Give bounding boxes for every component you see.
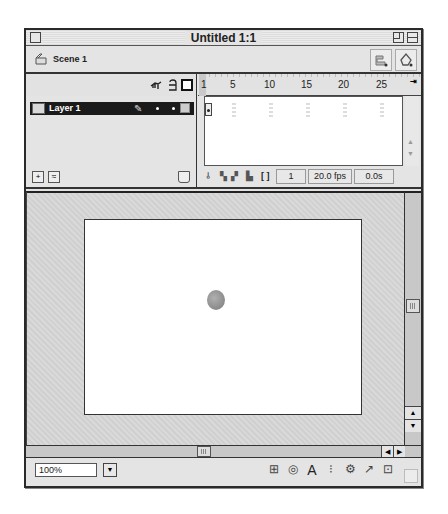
horizontal-scroll-thumb[interactable] bbox=[197, 446, 211, 457]
layers-header bbox=[26, 74, 196, 96]
title-bar[interactable]: Untitled 1:1 bbox=[26, 30, 421, 46]
info-panel-icon[interactable]: ⊞ bbox=[267, 462, 281, 478]
layers-footer: + ≈ bbox=[26, 167, 196, 187]
vertical-scroll-thumb[interactable] bbox=[406, 299, 420, 313]
scroll-left-button[interactable]: ◀ bbox=[381, 446, 393, 457]
edit-symbols-icon bbox=[373, 52, 389, 68]
frame-view-menu-icon[interactable]: ⇥ bbox=[410, 77, 417, 86]
layer-icon bbox=[32, 103, 45, 114]
launcher-bar: ⊞ ◎ A ⁝ ⚙ ↗ ⊡ bbox=[267, 462, 395, 478]
keyframe-1[interactable] bbox=[205, 103, 212, 116]
work-area[interactable] bbox=[26, 191, 404, 445]
instance-icon[interactable]: ⁝ bbox=[324, 462, 338, 478]
layers-panel: Layer 1 ✎ + ≈ bbox=[26, 74, 197, 187]
frame-marker bbox=[343, 103, 347, 117]
horizontal-scrollbar[interactable]: ◀ ▶ bbox=[26, 445, 421, 458]
edit-scene-icon bbox=[398, 52, 414, 68]
scene-icon bbox=[34, 53, 48, 65]
scroll-right-button[interactable]: ▶ bbox=[393, 446, 405, 457]
vertical-scrollbar[interactable]: ▲ ▼ bbox=[404, 191, 421, 445]
timeline: Layer 1 ✎ + ≈ 1 5 10 15 20 25 ⇥ bbox=[26, 74, 421, 189]
frame-rate-field[interactable]: 20.0 fps bbox=[308, 169, 352, 184]
outline-icon[interactable] bbox=[181, 79, 193, 91]
outline-color-box[interactable] bbox=[180, 103, 190, 113]
scroll-up-icon[interactable]: ▲ bbox=[407, 138, 414, 145]
layer-name: Layer 1 bbox=[49, 103, 81, 113]
ruler-tick: 15 bbox=[301, 79, 312, 90]
character-icon[interactable]: A bbox=[305, 462, 319, 478]
status-bar: 100% ▼ ⊞ ◎ A ⁝ ⚙ ↗ ⊡ bbox=[26, 458, 421, 486]
frames-panel: 1 5 10 15 20 25 ⇥ ▲ ▼ ⫰ bbox=[198, 74, 421, 187]
actions-icon[interactable]: ↗ bbox=[362, 462, 376, 478]
edit-scene-button[interactable] bbox=[395, 49, 417, 71]
frame-ruler[interactable]: 1 5 10 15 20 25 ⇥ bbox=[198, 74, 421, 96]
frame-grid[interactable] bbox=[204, 96, 403, 166]
zoom-box[interactable] bbox=[393, 32, 404, 43]
mixer-icon[interactable]: ◎ bbox=[286, 462, 300, 478]
center-frame-icon[interactable]: ⫰ bbox=[206, 171, 210, 182]
library-icon[interactable]: ⊡ bbox=[381, 462, 395, 478]
onion-skin-outlines-icon[interactable]: ▞ bbox=[231, 171, 238, 181]
scroll-up-button[interactable]: ▲ bbox=[405, 406, 421, 419]
elapsed-time-field: 0.0s bbox=[354, 169, 394, 184]
frames-footer: ⫰ ▚ ▞ ▙ [ ] 1 20.0 fps 0.0s bbox=[198, 167, 421, 187]
lock-icon[interactable] bbox=[167, 79, 179, 91]
stage[interactable] bbox=[84, 219, 362, 415]
window-title: Untitled 1:1 bbox=[26, 30, 421, 46]
movie-explorer-icon[interactable]: ⚙ bbox=[343, 462, 357, 478]
frame-marker bbox=[232, 103, 236, 117]
frame-marker bbox=[380, 103, 384, 117]
onion-skin-icon[interactable]: ▚ bbox=[220, 171, 227, 181]
add-layer-icon[interactable]: + bbox=[32, 171, 44, 183]
trash-icon[interactable] bbox=[178, 171, 190, 183]
visibility-dot[interactable] bbox=[156, 107, 159, 110]
frame-marker bbox=[269, 103, 273, 117]
circle-shape[interactable] bbox=[207, 290, 225, 310]
layer-row[interactable]: Layer 1 ✎ bbox=[30, 102, 194, 115]
current-frame-field: 1 bbox=[276, 169, 306, 184]
eye-icon[interactable] bbox=[150, 79, 162, 91]
scene-name: Scene 1 bbox=[53, 54, 87, 64]
zoom-field[interactable]: 100% bbox=[35, 463, 97, 477]
movie-window: Untitled 1:1 Scene 1 bbox=[24, 28, 423, 488]
timeline-scrollbar[interactable]: ▲ ▼ bbox=[405, 96, 419, 166]
ruler-tick: 25 bbox=[376, 79, 387, 90]
edit-multiple-frames-icon[interactable]: ▙ bbox=[246, 171, 253, 181]
scroll-down-button[interactable]: ▼ bbox=[405, 419, 421, 432]
pencil-icon: ✎ bbox=[134, 103, 142, 114]
scene-bar: Scene 1 bbox=[26, 46, 421, 74]
modify-onion-markers-icon[interactable]: [ ] bbox=[261, 171, 270, 181]
collapse-box[interactable] bbox=[407, 32, 418, 43]
resize-grip[interactable] bbox=[404, 469, 418, 483]
add-guide-layer-icon[interactable]: ≈ bbox=[48, 171, 60, 183]
lock-dot[interactable] bbox=[172, 107, 175, 110]
ruler-tick: 5 bbox=[230, 79, 236, 90]
zoom-dropdown-button[interactable]: ▼ bbox=[103, 463, 117, 477]
edit-symbols-button[interactable] bbox=[370, 49, 392, 71]
ruler-tick: 10 bbox=[264, 79, 275, 90]
ruler-tick: 20 bbox=[338, 79, 349, 90]
scroll-down-icon[interactable]: ▼ bbox=[407, 150, 414, 157]
ruler-tick: 1 bbox=[201, 79, 207, 90]
frame-marker bbox=[306, 103, 310, 117]
